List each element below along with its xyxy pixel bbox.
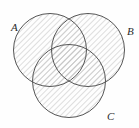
set-a-label: A <box>10 21 18 33</box>
set-b-label: B <box>127 25 134 37</box>
venn-diagram-canvas: A B C <box>0 0 139 128</box>
venn-diagram-figure: A B C <box>0 0 139 128</box>
set-c-label: C <box>107 110 115 122</box>
